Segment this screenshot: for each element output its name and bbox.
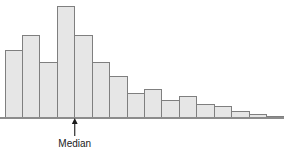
- histogram-plot: Median: [0, 0, 284, 150]
- median-arrow-head: [72, 118, 78, 124]
- histogram-bar: [22, 36, 39, 118]
- histogram-bar: [5, 50, 22, 117]
- bars-group: [5, 7, 284, 118]
- histogram-bar: [197, 104, 214, 117]
- histogram-bar: [57, 7, 74, 118]
- histogram-bar: [214, 107, 231, 118]
- histogram-bar: [127, 93, 144, 117]
- histogram-bar: [40, 63, 57, 118]
- median-marker: Median: [58, 118, 91, 149]
- histogram-bar: [162, 100, 179, 117]
- median-label: Median: [58, 138, 91, 149]
- histogram-bar: [75, 36, 92, 118]
- histogram-bar: [92, 63, 109, 118]
- histogram-bar: [145, 90, 162, 118]
- histogram-figure: Median: [0, 0, 284, 150]
- histogram-bar: [179, 96, 196, 117]
- histogram-bar: [110, 76, 127, 117]
